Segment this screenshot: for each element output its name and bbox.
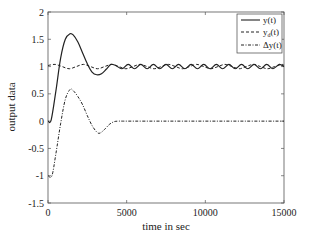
legend-label-dy: Δy(t) — [263, 40, 282, 50]
legend: y(t) yd(t) Δy(t) — [237, 14, 282, 53]
y-tick-label: 1 — [39, 61, 44, 72]
y-tick-label: 0 — [39, 116, 44, 127]
y-tick-label: -1 — [36, 170, 44, 181]
legend-label-y: y(t) — [263, 15, 276, 25]
legend-label-yd-tail: (t) — [271, 27, 280, 37]
y-tick-label: 1.5 — [32, 34, 45, 45]
chart: -1.5-1-0.500.511.52 050001000015000 time… — [0, 0, 311, 238]
x-tick-label: 0 — [46, 207, 51, 218]
x-tick-label: 5000 — [117, 207, 137, 218]
x-tick-label: 10000 — [193, 207, 218, 218]
y-tick-label: 2 — [39, 7, 44, 18]
y-axis-label: output data — [5, 82, 17, 131]
x-axis-label: time in sec — [142, 220, 190, 232]
y-tick-label: -1.5 — [28, 198, 44, 209]
y-tick-label: 0.5 — [32, 88, 45, 99]
legend-label-yd: yd(t) — [263, 27, 279, 38]
y-tick-label: -0.5 — [28, 143, 44, 154]
x-tick-label: 15000 — [272, 207, 297, 218]
